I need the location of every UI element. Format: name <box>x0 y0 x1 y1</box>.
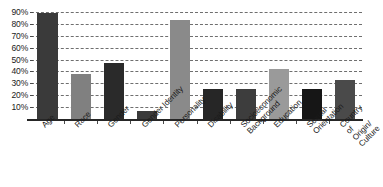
x-axis-labels: AgeRaceGenderGender IdentityPersonalityD… <box>0 121 363 187</box>
y-tick-label: 70% <box>12 32 28 40</box>
bar-slot <box>31 6 64 119</box>
y-tick-mark <box>30 12 33 13</box>
y-tick-mark <box>30 60 33 61</box>
y-axis: 90%80%70%60%50%40%30%20%10% <box>0 0 30 122</box>
x-tick-mark <box>263 121 264 124</box>
x-tick-mark <box>329 121 330 124</box>
y-tick-mark <box>30 95 33 96</box>
x-tick-mark <box>97 121 98 124</box>
y-tick-mark <box>30 36 33 37</box>
x-tick-mark <box>163 121 164 124</box>
y-tick-mark <box>30 83 33 84</box>
bar <box>170 20 190 119</box>
y-tick-label: 90% <box>12 8 28 16</box>
y-tick-label: 60% <box>12 44 28 52</box>
x-tick-mark <box>130 121 131 124</box>
y-tick-label: 40% <box>12 67 28 75</box>
x-tick-mark <box>230 121 231 124</box>
bar-slot <box>230 6 263 119</box>
x-tick-mark <box>64 121 65 124</box>
y-tick-label: 50% <box>12 56 28 64</box>
y-tick-mark <box>30 71 33 72</box>
bar <box>37 13 57 119</box>
y-tick-label: 30% <box>12 79 28 87</box>
y-tick-label: 10% <box>12 103 28 111</box>
y-tick-label: 80% <box>12 20 28 28</box>
y-tick-mark <box>30 107 33 108</box>
y-tick-mark <box>30 24 33 25</box>
x-tick-mark <box>296 121 297 124</box>
y-tick-label: 20% <box>12 91 28 99</box>
y-tick-mark <box>30 48 33 49</box>
x-tick-mark <box>197 121 198 124</box>
bar-slot <box>64 6 97 119</box>
bar-slot <box>97 6 130 119</box>
bar-slot <box>130 6 163 119</box>
